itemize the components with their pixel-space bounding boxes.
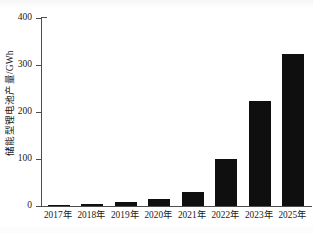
y-tick-label: 200 (18, 107, 32, 117)
bar (182, 192, 204, 206)
chart-figure: 储能型锂电池产量/GWh 0100200300400 2017年2018年201… (0, 0, 313, 233)
bar (148, 199, 170, 206)
x-tick-label: 2025年 (278, 209, 306, 221)
x-axis-line (41, 206, 312, 207)
x-tick-label: 2022年 (211, 209, 239, 221)
bar (81, 204, 103, 206)
bar (215, 159, 237, 206)
y-axis-title: 储能型锂电池产量/GWh (2, 0, 18, 206)
x-tick-label: 2019年 (111, 209, 139, 221)
y-tick-mark (36, 112, 41, 113)
y-tick-mark (36, 65, 41, 66)
y-tick-label: 100 (18, 154, 32, 164)
x-tick-label: 2021年 (178, 209, 206, 221)
y-tick-label: 400 (18, 13, 32, 23)
x-tick-label: 2018年 (77, 209, 105, 221)
y-tick-mark (36, 159, 41, 160)
page-edge-artifact-top (0, 0, 313, 9)
y-axis-title-text: 储能型锂电池产量/GWh (5, 50, 15, 156)
x-axis-tick-labels: 2017年2018年2019年2020年2021年2022年2023年2025年 (41, 209, 312, 225)
page-edge-artifact-bottom (0, 227, 313, 233)
y-tick-mark (36, 18, 41, 19)
bar (249, 101, 271, 206)
x-tick-label: 2017年 (44, 209, 72, 221)
y-tick-label: 0 (27, 201, 32, 211)
x-tick-label: 2023年 (245, 209, 273, 221)
plot-area (42, 18, 310, 206)
bar (115, 202, 137, 206)
y-tick-label: 300 (18, 60, 32, 70)
y-tick-mark (36, 206, 41, 207)
x-tick-label: 2020年 (144, 209, 172, 221)
bar (282, 54, 304, 206)
bar (48, 205, 70, 207)
